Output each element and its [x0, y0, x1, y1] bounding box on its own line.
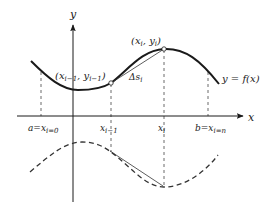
arc-length-diagram: y x y = f(x) (xi−1, yi−1) (xi, yi) Δsi a… — [0, 0, 273, 213]
lower-chord — [110, 151, 163, 186]
point-prev — [109, 81, 113, 85]
point-prev-label: (xi−1, yi−1) — [55, 70, 106, 83]
point-curr-label: (xi, yi) — [131, 35, 161, 48]
x-axis-label: x — [248, 111, 255, 124]
tick-label-b: b=xi=n — [195, 123, 226, 135]
point-curr — [162, 47, 166, 51]
y-axis-label: y — [69, 8, 77, 21]
curve-label: y = f(x) — [221, 73, 260, 84]
chord-label: Δsi — [128, 72, 142, 84]
tick-label-a: a=xi=0 — [28, 123, 59, 135]
dashed-lower-curve — [30, 142, 218, 187]
tick-label-x-i-minus-1: xi−1 — [100, 123, 118, 135]
